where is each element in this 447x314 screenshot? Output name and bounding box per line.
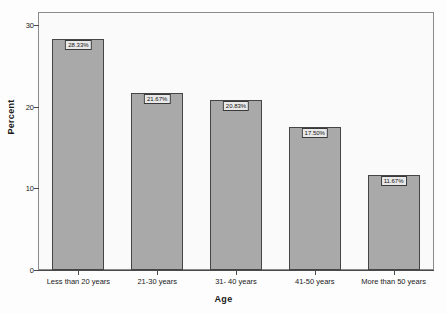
bar-group: 21.67% xyxy=(131,13,183,270)
x-axis-category-label: 21-30 years xyxy=(137,277,177,286)
x-axis-category-label: 31- 40 years xyxy=(215,277,257,286)
y-axis-tick-label: 0 xyxy=(14,266,34,275)
bar-group: 17.50% xyxy=(289,13,341,270)
x-axis-tick-mark xyxy=(157,270,158,275)
bar-group: 11.67% xyxy=(368,13,420,270)
y-axis-tick-label: 10 xyxy=(14,184,34,193)
bar xyxy=(289,127,341,270)
y-axis-tick-label: 30 xyxy=(14,21,34,30)
x-axis-tick-mark xyxy=(394,270,395,275)
x-axis-category-label: More than 50 years xyxy=(361,277,426,286)
bar xyxy=(52,39,104,270)
x-axis-tick-mark xyxy=(236,270,237,275)
bar-value-label: 11.67% xyxy=(381,176,407,186)
bar xyxy=(368,175,420,270)
x-axis-tick-mark xyxy=(78,270,79,275)
bar-value-label: 21.67% xyxy=(144,94,170,104)
x-axis-category-label: 41-50 years xyxy=(295,277,335,286)
bar-value-label: 17.50% xyxy=(302,128,328,138)
x-axis-tick-mark xyxy=(315,270,316,275)
bar xyxy=(131,93,183,270)
bar xyxy=(210,100,262,270)
x-axis-category-label: Less than 20 years xyxy=(47,277,110,286)
bar-group: 20.83% xyxy=(210,13,262,270)
bars-area: 28.33%21.67%20.83%17.50%11.67% xyxy=(39,13,433,270)
y-axis-tick-label: 20 xyxy=(14,102,34,111)
y-axis-title: Percent xyxy=(6,82,16,152)
bar-chart: 0102030 Percent 28.33%21.67%20.83%17.50%… xyxy=(0,0,447,314)
bar-value-label: 28.33% xyxy=(65,40,91,50)
bar-value-label: 20.83% xyxy=(223,101,249,111)
x-axis-title: Age xyxy=(0,294,447,304)
bar-group: 28.33% xyxy=(52,13,104,270)
